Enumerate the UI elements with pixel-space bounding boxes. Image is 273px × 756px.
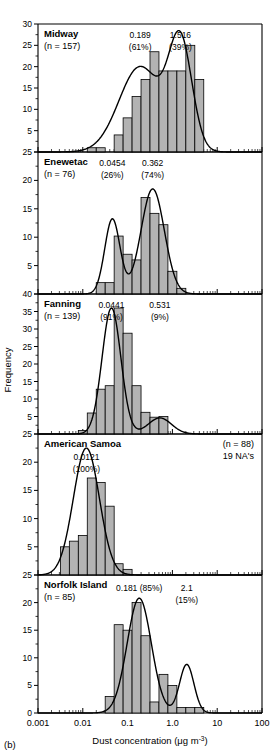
y-tick-label: 15 xyxy=(23,204,33,214)
x-axis-title-close: ) xyxy=(204,735,207,746)
histogram-bar xyxy=(141,197,150,294)
y-tick-label: 20 xyxy=(23,359,33,369)
y-tick-label: 15 xyxy=(23,377,33,387)
y-tick-label: 10 xyxy=(23,232,33,242)
panel-fanning: 510152025303540Fanning(n = 139)0.0441(91… xyxy=(23,289,262,434)
y-tick-label: 5 xyxy=(27,542,32,552)
y-tick-label: 30 xyxy=(23,324,33,334)
mode-annotation-percent: (61%) xyxy=(129,42,152,52)
figure-svg: 51015202530Midway(n = 157)0.189(61%)1.51… xyxy=(0,0,273,756)
panel-enewetac: 510152025Enewetac(n = 76)0.0454(26%)0.36… xyxy=(23,147,262,294)
y-tick-label: 20 xyxy=(23,175,33,185)
y-tick-label: 25 xyxy=(23,40,33,50)
histogram-bar xyxy=(195,79,204,152)
x-tick-label: 0.1 xyxy=(121,718,134,728)
histogram-bar xyxy=(114,308,123,434)
histogram-bar xyxy=(159,674,168,713)
panel-title: Fanning xyxy=(44,298,81,309)
histogram-bar xyxy=(159,225,168,294)
mode-annotation-value: 0.181 (85%) xyxy=(116,583,162,593)
y-tick-label: 15 xyxy=(23,625,33,635)
y-tick-label: 35 xyxy=(23,307,33,317)
mode-annotation-value: 0.0121 xyxy=(73,452,99,462)
y-tick-label: 10 xyxy=(23,514,33,524)
y-tick-label: 30 xyxy=(23,19,33,29)
mode-annotation-value: 1.516 xyxy=(170,30,192,40)
y-tick-label: 10 xyxy=(23,104,33,114)
mode-annotation-percent: (91%) xyxy=(100,312,123,322)
histogram-bar xyxy=(87,413,96,434)
histogram-bar xyxy=(87,478,96,575)
panel-sample-size: (n = 139) xyxy=(44,311,80,321)
histogram-bar xyxy=(177,707,186,713)
histogram-bar xyxy=(150,702,159,713)
mode-annotation-percent: (74%) xyxy=(141,170,164,180)
panel-sample-size: (n = 88) xyxy=(223,439,254,449)
figure-panel-label: (b) xyxy=(4,739,16,750)
mode-annotation-value: 0.0441 xyxy=(98,300,124,310)
mode-annotation-percent: (39%) xyxy=(169,42,192,52)
histogram-bar xyxy=(132,97,141,152)
histogram-bar xyxy=(60,547,69,575)
panel-title: Enewetac xyxy=(44,156,88,167)
panel-american-samoa: 510152025American Samoa19 NA's(n = 88)0.… xyxy=(23,429,262,575)
y-tick-label: 5 xyxy=(27,261,32,271)
y-tick-label: 10 xyxy=(23,394,33,404)
x-tick-label: 0.001 xyxy=(27,718,50,728)
y-tick-label: 0 xyxy=(27,708,32,718)
histogram-bar xyxy=(69,541,78,575)
y-tick-label: 5 xyxy=(27,126,32,136)
histogram-bar xyxy=(78,536,87,575)
histogram-bar xyxy=(186,707,195,713)
y-tick-label: 20 xyxy=(23,62,33,72)
mode-annotation-percent: (26%) xyxy=(101,170,124,180)
panel-na-note: 19 NA's xyxy=(223,451,255,461)
y-tick-label: 5 xyxy=(27,412,32,422)
x-tick-label: 10 xyxy=(212,718,222,728)
panel-sample-size: (n = 85) xyxy=(44,592,75,602)
histogram-bar xyxy=(186,45,195,152)
x-axis-title: Dust concentration (μg m-3) xyxy=(92,735,207,747)
histogram-bar xyxy=(141,79,150,152)
histogram-bar xyxy=(159,71,168,152)
mode-annotation-percent: (9%) xyxy=(151,312,169,322)
histogram-bar xyxy=(123,118,132,152)
y-tick-label: 20 xyxy=(23,598,33,608)
y-tick-label: 15 xyxy=(23,83,33,93)
y-tick-label: 40 xyxy=(23,289,33,299)
histogram-bar xyxy=(150,52,159,152)
panel-sample-size: (n = 157) xyxy=(44,41,80,51)
histogram-bar xyxy=(168,71,177,152)
y-tick-label: 20 xyxy=(23,457,33,467)
histogram-bar xyxy=(96,483,105,575)
mode-annotation-value: 0.189 xyxy=(130,30,152,40)
y-tick-label: 25 xyxy=(23,429,33,439)
mode-annotation-value: 2.1 xyxy=(181,583,193,593)
histogram-bar xyxy=(141,636,150,713)
mode-annotation-value: 0.362 xyxy=(142,158,164,168)
histogram-bar xyxy=(114,236,123,294)
mode-annotation-value: 0.0454 xyxy=(99,158,125,168)
panel-midway: 51015202530Midway(n = 157)0.189(61%)1.51… xyxy=(23,19,262,152)
histogram-bar xyxy=(96,148,105,152)
panel-title: American Samoa xyxy=(44,438,122,449)
mode-annotation-percent: (100%) xyxy=(73,464,101,474)
mode-annotation-percent: (15%) xyxy=(175,595,198,605)
histogram-bar xyxy=(132,386,141,434)
histogram-bar xyxy=(105,283,114,294)
panel-sample-size: (n = 76) xyxy=(44,169,75,179)
y-tick-label: 5 xyxy=(27,680,32,690)
dust-concentration-figure: 51015202530Midway(n = 157)0.189(61%)1.51… xyxy=(0,0,273,756)
x-axis: 0.0010.010.11.010100 xyxy=(27,718,270,728)
histogram-bar xyxy=(114,625,123,713)
x-tick-label: 1.0 xyxy=(166,718,179,728)
y-tick-label: 10 xyxy=(23,653,33,663)
y-tick-label: 25 xyxy=(23,570,33,580)
histogram-bar xyxy=(105,386,114,434)
y-tick-label: 15 xyxy=(23,485,33,495)
y-tick-label: 25 xyxy=(23,147,33,157)
y-axis-title: Frequency xyxy=(2,347,13,392)
histogram-bar xyxy=(105,506,114,575)
panel-norfolk-island: 0510152025Norfolk Island(n = 85)0.181 (8… xyxy=(23,570,262,718)
histogram-bar xyxy=(177,71,186,152)
